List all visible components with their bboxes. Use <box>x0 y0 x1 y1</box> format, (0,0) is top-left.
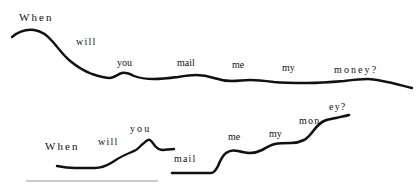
contour-line-bottom-right <box>172 115 349 173</box>
word-label-me-top: me <box>232 60 244 70</box>
word-label-my-bottom: my <box>269 129 282 139</box>
contour-line-top <box>12 30 412 88</box>
word-label-me-bottom: me <box>228 132 240 142</box>
contour-canvas <box>0 0 416 190</box>
word-label-will-top: will <box>76 37 96 47</box>
word-label-will-bottom: will <box>98 137 118 147</box>
word-label-when-top: When <box>19 12 54 23</box>
word-label-mail-top: mail <box>177 58 195 68</box>
word-label-you-bottom: you <box>130 124 151 134</box>
word-label-my-top: my <box>282 63 295 73</box>
word-label-when-bottom: When <box>45 141 80 152</box>
intonation-contour-figure: When will you mail me my money? When wil… <box>0 0 416 190</box>
word-label-mail-bottom: mail <box>174 154 197 164</box>
word-label-mon-bottom: mon <box>299 116 320 126</box>
word-label-ey-bottom: ey? <box>329 102 346 112</box>
word-label-money-top: money? <box>334 65 378 75</box>
word-label-you-top: you <box>117 58 132 68</box>
